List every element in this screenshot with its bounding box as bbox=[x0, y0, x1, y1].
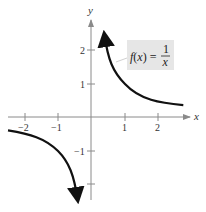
label-pointer bbox=[116, 58, 127, 62]
y-tick-label: 1 bbox=[80, 79, 85, 90]
x-tick-label: −1 bbox=[51, 122, 62, 133]
x-tick-label: 1 bbox=[122, 122, 127, 133]
y-tick-label: −1 bbox=[74, 146, 85, 157]
x-tick-label: 2 bbox=[155, 122, 160, 133]
x-axis-label: x bbox=[193, 110, 199, 122]
x-tick-label: −2 bbox=[18, 122, 29, 133]
curve-left-branch bbox=[8, 130, 78, 200]
y-tick-label: 2 bbox=[80, 45, 85, 56]
y-axis-label: y bbox=[87, 4, 93, 16]
function-label-numerator: 1 bbox=[163, 42, 169, 56]
function-label-lhs: f(x) = bbox=[130, 50, 157, 64]
function-label-denominator: x bbox=[162, 55, 169, 69]
graph: x y −2 −1 1 2 2 1 −1 f(x) = 1 x bbox=[0, 0, 206, 212]
